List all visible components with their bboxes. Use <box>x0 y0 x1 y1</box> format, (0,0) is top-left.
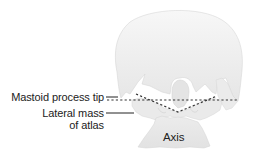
skull-base-diagram <box>0 0 257 158</box>
mastoid-process-tip-label: Mastoid process tip <box>0 91 104 103</box>
lateral-mass-label-line1: Lateral mass <box>0 107 104 119</box>
axis-label: Axis <box>163 131 184 143</box>
lateral-mass-label-line2: of atlas <box>0 119 104 131</box>
dens-shape <box>172 80 189 108</box>
